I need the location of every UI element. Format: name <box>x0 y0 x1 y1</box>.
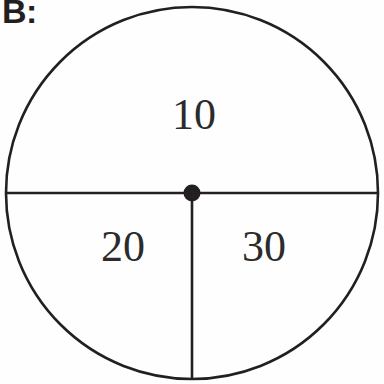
circle-diagram-svg <box>0 0 384 384</box>
sector-label-bottom-left: 20 <box>87 225 159 269</box>
center-point-dot <box>184 185 201 202</box>
sector-label-bottom-right: 30 <box>228 225 300 269</box>
pie-diagram-figure: B: 10 20 30 <box>0 0 384 384</box>
sector-label-top: 10 <box>158 93 230 137</box>
panel-label-b: B: <box>2 0 37 28</box>
